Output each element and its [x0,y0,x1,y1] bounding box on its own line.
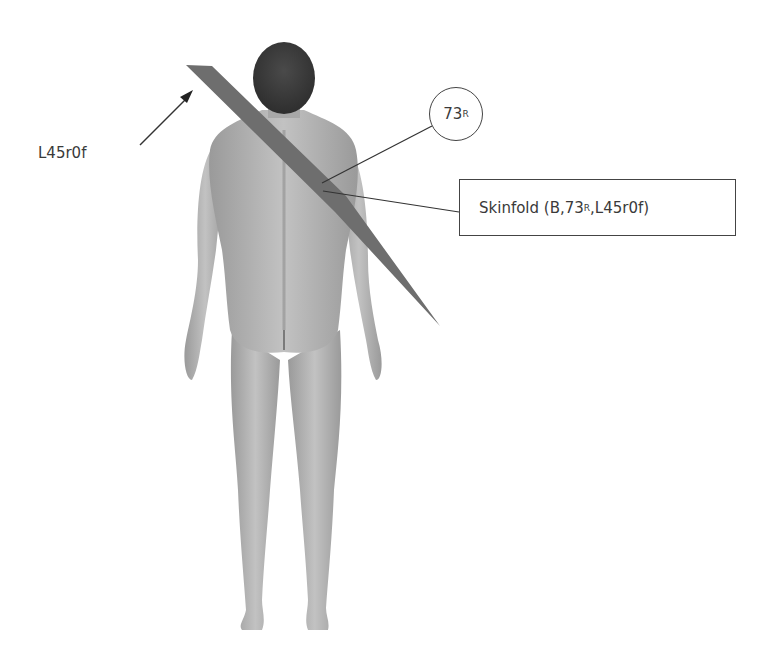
arrow-head-icon [180,90,193,103]
box-prefix: Skinfold (B, [479,199,565,217]
arrow-label: L45r0f [38,144,86,162]
circle-number: 73 [443,105,462,123]
body-figure [0,0,774,666]
arrow-line [140,97,188,145]
site-number-circle: 73R [429,87,483,141]
legs [231,330,341,630]
diagram-canvas: L45r0f 73R Skinfold (B,73R,L45r0f) [0,0,774,666]
head-hair [253,42,315,114]
box-number: 73 [565,199,584,217]
skinfold-label-box: Skinfold (B,73R,L45r0f) [459,179,736,236]
box-suffix: ,L45r0f) [590,199,649,217]
circle-subscript: R [462,109,468,119]
